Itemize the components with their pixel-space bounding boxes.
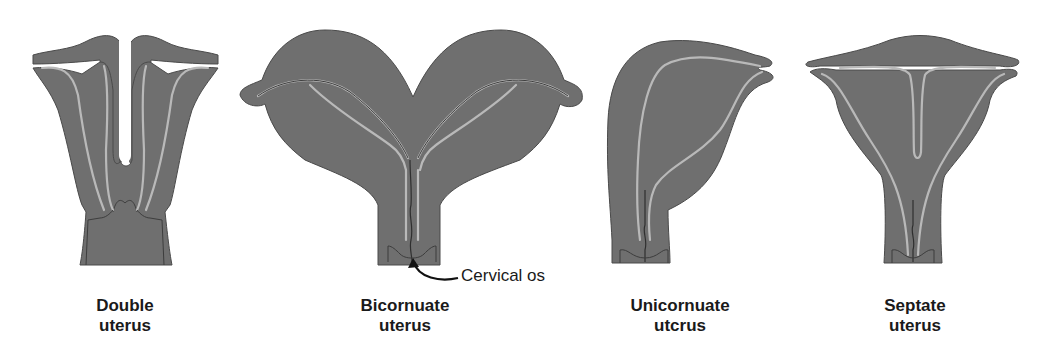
- label-line-2: utcrus: [605, 316, 755, 336]
- bicornuate-uterus-label: Bicornuate uterus: [340, 296, 470, 336]
- septate-uterus-label: Septate uterus: [850, 296, 980, 336]
- septate-uterus-illustration: [806, 36, 1019, 264]
- unicornuate-uterus-illustration: [607, 41, 773, 263]
- bicornuate-uterus-illustration: [240, 30, 582, 265]
- label-line-2: uterus: [340, 316, 470, 336]
- label-line-1: Double: [60, 296, 190, 316]
- cervical-os-annotation: Cervical os: [461, 266, 545, 286]
- double-uterus-illustration: [33, 36, 218, 265]
- label-line-1: Bicornuate: [340, 296, 470, 316]
- label-line-2: uterus: [850, 316, 980, 336]
- unicornuate-uterus-label: Unicornuate utcrus: [605, 296, 755, 336]
- label-line-1: Septate: [850, 296, 980, 316]
- label-line-2: uterus: [60, 316, 190, 336]
- double-uterus-label: Double uterus: [60, 296, 190, 336]
- label-line-1: Unicornuate: [605, 296, 755, 316]
